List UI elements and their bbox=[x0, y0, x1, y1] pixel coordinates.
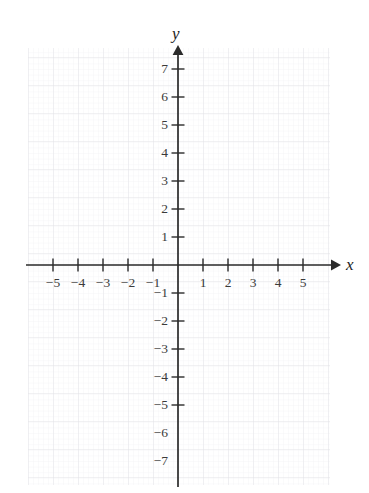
y-axis-arrowhead bbox=[173, 45, 184, 55]
x-tick-label-neg5: −5 bbox=[46, 276, 60, 290]
x-tick-label-3: 3 bbox=[250, 276, 257, 290]
y-tick-label-5: 5 bbox=[150, 118, 168, 132]
y-tick-label-neg1: −1 bbox=[144, 286, 168, 300]
y-tick-label-neg5: −5 bbox=[144, 398, 168, 412]
x-tick-label-4: 4 bbox=[275, 276, 282, 290]
x-tick-label-1: 1 bbox=[200, 276, 207, 290]
y-tick-label-neg7: −7 bbox=[144, 454, 168, 468]
x-axis-label: x bbox=[346, 256, 354, 273]
y-axis-label: y bbox=[172, 25, 180, 42]
x-tick-label-neg2: −2 bbox=[121, 276, 135, 290]
y-tick-label-2: 2 bbox=[150, 202, 168, 216]
y-tick-label-neg4: −4 bbox=[144, 370, 168, 384]
y-tick-label-1: 1 bbox=[150, 230, 168, 244]
x-tick-label-5: 5 bbox=[300, 276, 307, 290]
x-tick-label-neg4: −4 bbox=[71, 276, 85, 290]
x-tick-label-2: 2 bbox=[225, 276, 232, 290]
y-tick-label-neg3: −3 bbox=[144, 342, 168, 356]
y-tick-label-3: 3 bbox=[150, 174, 168, 188]
x-tick-label-neg3: −3 bbox=[96, 276, 110, 290]
axes-layer bbox=[0, 0, 369, 493]
y-tick-label-neg2: −2 bbox=[144, 314, 168, 328]
y-tick-label-4: 4 bbox=[150, 146, 168, 160]
y-tick-label-7: 7 bbox=[150, 62, 168, 76]
x-axis-arrowhead bbox=[331, 260, 341, 271]
coordinate-plane-figure: y x −5 −4 −3 −2 −1 1 2 3 4 5 7 6 5 4 3 2… bbox=[0, 0, 369, 493]
y-tick-label-neg6: −6 bbox=[144, 426, 168, 440]
y-tick-label-6: 6 bbox=[150, 90, 168, 104]
